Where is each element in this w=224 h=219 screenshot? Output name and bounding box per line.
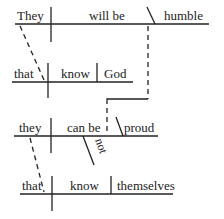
clause-connector-elbow (107, 99, 148, 104)
clause-main-1: They will be humble (15, 7, 209, 42)
complement-slant (147, 7, 155, 24)
connector-word: that (14, 66, 34, 81)
sentence-diagram: They will be humble that know God they c… (0, 0, 224, 219)
verb-word: will be (89, 8, 125, 23)
verb-word: can be (67, 120, 101, 135)
subject-word: They (17, 8, 44, 23)
verb-word: know (61, 66, 91, 81)
modifier-word: not (92, 136, 111, 156)
complement-word: humble (164, 8, 203, 23)
complement-slant (116, 117, 123, 136)
object-word: themselves (117, 178, 175, 193)
complement-word: proud (124, 120, 155, 135)
object-word: God (104, 66, 127, 81)
verb-word: know (70, 178, 100, 193)
clause-relative-1: that know God (12, 63, 133, 98)
connector-word: that (22, 178, 42, 193)
subject-word: they (19, 120, 42, 135)
clause-relative-2: that know themselves (20, 176, 175, 211)
